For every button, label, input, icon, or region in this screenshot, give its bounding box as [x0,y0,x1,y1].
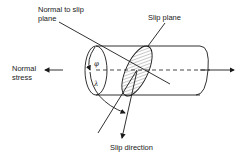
slip-direction-label: Slip direction [110,143,153,152]
lambda-symbol: λ [93,80,98,88]
slip-plane-label: Slip plane [148,13,181,22]
slip-plane-leader [148,23,165,46]
normal-to-slip-plane-label-line2: plane [38,14,56,23]
phi-symbol: φ [94,60,99,68]
slip-diagram: Normal to slip plane Slip plane Normal s… [0,0,248,158]
normal-stress-label-line2: stress [12,73,32,82]
normal-to-slip-plane-label: Normal to slip [38,5,84,14]
normal-stress-label: Normal [12,64,37,73]
